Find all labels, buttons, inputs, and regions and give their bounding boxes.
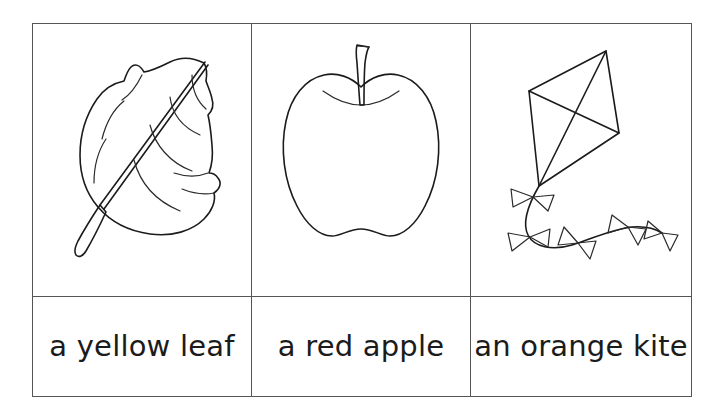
label-cell-leaf[interactable]: a yellow leaf [33,297,252,397]
apple-icon [252,35,470,285]
kite-tail-bow [558,227,596,259]
label-text-leaf: a yellow leaf [49,329,234,363]
kite-tail-bow [644,221,678,251]
label-row: a yellow leaf a red apple an orange kite [33,297,692,397]
kite-tail-bow [508,229,550,251]
kite-tail-bow [608,215,646,245]
leaf-icon [33,35,251,285]
label-cell-kite[interactable]: an orange kite [471,297,692,397]
picture-cell-kite[interactable] [471,24,692,297]
picture-cell-leaf[interactable] [33,24,252,297]
kite-icon [471,35,691,285]
label-text-kite: an orange kite [474,329,688,363]
label-text-apple: a red apple [278,329,444,363]
picture-word-table: a yellow leaf a red apple an orange kite [32,23,692,397]
picture-cell-apple[interactable] [252,24,471,297]
picture-row [33,24,692,297]
worksheet-page: a yellow leaf a red apple an orange kite [0,0,716,419]
label-cell-apple[interactable]: a red apple [252,297,471,397]
